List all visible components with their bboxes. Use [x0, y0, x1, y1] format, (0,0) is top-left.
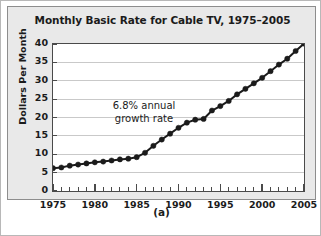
data-point-marker — [117, 157, 122, 162]
data-point-marker — [218, 104, 223, 109]
data-point-marker — [251, 81, 256, 86]
x-axis-ticks — [53, 184, 304, 191]
data-point-marker — [159, 137, 164, 142]
data-point-marker — [59, 165, 64, 170]
figure-caption: (a) — [1, 206, 321, 218]
annotation-line-2: growth rate — [84, 112, 204, 125]
data-point-marker — [142, 150, 147, 155]
data-point-marker — [276, 62, 281, 67]
data-point-marker — [76, 162, 81, 167]
data-point-marker — [176, 125, 181, 130]
chart-panel: Monthly Basic Rate for Cable TV, 1975–20… — [7, 6, 316, 200]
data-point-marker — [234, 92, 239, 97]
data-point-marker — [126, 156, 131, 161]
data-point-marker — [151, 143, 156, 148]
figure-container: Monthly Basic Rate for Cable TV, 1975–20… — [0, 0, 321, 236]
data-point-marker — [260, 75, 265, 80]
growth-rate-annotation: 6.8% annual growth rate — [84, 99, 204, 125]
data-point-marker — [67, 163, 72, 168]
data-point-marker — [268, 69, 273, 74]
data-point-marker — [92, 160, 97, 165]
data-point-marker — [101, 159, 106, 164]
data-point-marker — [53, 166, 56, 171]
data-point-marker — [243, 86, 248, 91]
data-point-marker — [285, 56, 290, 61]
data-point-marker — [226, 98, 231, 103]
data-point-marker — [84, 161, 89, 166]
data-point-marker — [293, 48, 298, 53]
annotation-line-1: 6.8% annual — [84, 99, 204, 112]
data-point-marker — [168, 131, 173, 136]
data-point-marker — [134, 155, 139, 160]
data-point-marker — [209, 108, 214, 113]
data-point-marker — [109, 158, 114, 163]
